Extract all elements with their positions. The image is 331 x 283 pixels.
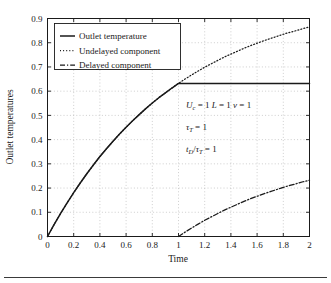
- y-tick-label: 0: [38, 232, 43, 242]
- y-tick-label: 0.6: [31, 86, 43, 96]
- y-tick-label: 0.5: [31, 111, 43, 121]
- x-tick-label: 0.8: [147, 240, 159, 250]
- y-axis-title: Outlet temperatures: [5, 89, 15, 164]
- legend-label: Outlet temperature: [79, 31, 147, 41]
- y-tick-label: 0.2: [31, 183, 42, 193]
- x-tick-label: 1.4: [225, 240, 237, 250]
- y-tick-label: 0.3: [31, 159, 43, 169]
- x-tick-label: 1: [176, 240, 181, 250]
- y-tick-label: 0.1: [31, 207, 42, 217]
- x-tick-label: 0.6: [120, 240, 132, 250]
- x-tick-label: 0.2: [68, 240, 79, 250]
- legend-label: Delayed component: [79, 60, 152, 70]
- x-tick-label: 1.2: [199, 240, 210, 250]
- x-axis-title: Time: [168, 254, 188, 264]
- y-tick-label: 0.8: [31, 38, 43, 48]
- chart-svg: 00.20.40.60.811.21.41.61.82 00.10.20.30.…: [0, 0, 331, 283]
- x-tick-label: 1.8: [278, 240, 290, 250]
- figure-container: 00.20.40.60.811.21.41.61.82 00.10.20.30.…: [0, 0, 331, 283]
- chart-legend: Outlet temperatureUndelayed componentDel…: [55, 24, 181, 71]
- x-tick-label: 0: [45, 240, 50, 250]
- x-tick-label: 2: [307, 240, 312, 250]
- y-tick-label: 0.7: [31, 62, 43, 72]
- x-tick-label: 1.6: [251, 240, 263, 250]
- annotation-line-2: τT = 1: [186, 122, 207, 133]
- x-tick-label: 0.4: [94, 240, 106, 250]
- y-tick-label: 0.9: [31, 14, 43, 24]
- y-tick-label: 0.4: [31, 135, 43, 145]
- legend-label: Undelayed component: [79, 46, 161, 56]
- annotation-line-1: Uc = 1 L = 1 v = 1: [186, 100, 251, 111]
